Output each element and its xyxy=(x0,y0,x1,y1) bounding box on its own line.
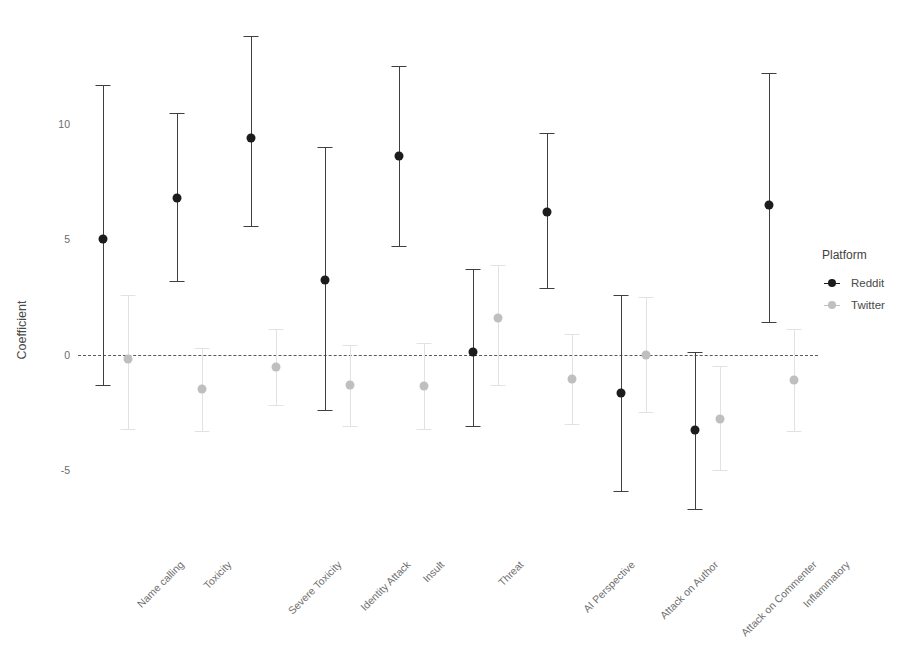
legend-key-dot xyxy=(828,301,836,309)
x-tick-label: Toxicity xyxy=(201,558,234,591)
error-bar-cap xyxy=(269,405,284,406)
series-twitter xyxy=(78,18,818,530)
error-bar-cap xyxy=(195,431,210,432)
y-axis: -50510 xyxy=(40,18,70,530)
error-bar-cap xyxy=(565,424,580,425)
data-point[interactable] xyxy=(198,385,207,394)
x-tick-label: Insult xyxy=(420,558,446,584)
legend-item-reddit[interactable]: Reddit xyxy=(822,272,907,294)
data-point[interactable] xyxy=(716,415,725,424)
error-bar-cap xyxy=(713,366,728,367)
chart-legend: Platform RedditTwitter xyxy=(822,248,907,316)
error-bar-cap xyxy=(417,343,432,344)
error-bar xyxy=(498,265,499,385)
y-tick-label: 10 xyxy=(58,118,70,130)
legend-title: Platform xyxy=(822,248,907,262)
plot-area: Name callingToxicitySevere ToxicityIdent… xyxy=(78,18,818,530)
data-point[interactable] xyxy=(568,374,577,383)
x-tick-label: AI Perspective xyxy=(581,558,637,614)
y-axis-title: Coefficient xyxy=(15,301,29,360)
legend-key-icon xyxy=(822,273,842,293)
data-point[interactable] xyxy=(420,381,429,390)
error-bar-cap xyxy=(269,329,284,330)
legend-key-dot xyxy=(828,279,836,287)
legend-key-icon xyxy=(822,295,842,315)
legend-entries: RedditTwitter xyxy=(822,272,907,316)
error-bar-cap xyxy=(491,265,506,266)
data-point[interactable] xyxy=(272,363,281,372)
legend-label: Twitter xyxy=(851,299,885,311)
data-point[interactable] xyxy=(790,376,799,385)
legend-label: Reddit xyxy=(851,277,884,289)
data-point[interactable] xyxy=(346,380,355,389)
x-tick-label: Threat xyxy=(496,558,526,588)
y-tick-label: -5 xyxy=(61,464,70,476)
data-point[interactable] xyxy=(494,313,503,322)
error-bar-cap xyxy=(343,345,358,346)
x-tick-label: Attack on Author xyxy=(657,558,720,621)
error-bar-cap xyxy=(417,429,432,430)
x-tick-label: Severe Toxicity xyxy=(285,558,343,616)
error-bar-cap xyxy=(639,412,654,413)
error-bar-cap xyxy=(195,348,210,349)
error-bar-cap xyxy=(787,431,802,432)
data-point[interactable] xyxy=(642,350,651,359)
error-bar-cap xyxy=(343,426,358,427)
y-tick-label: 5 xyxy=(64,233,70,245)
error-bar-cap xyxy=(787,329,802,330)
error-bar-cap xyxy=(713,470,728,471)
chart-page: Coefficient -50510 Name callingToxicityS… xyxy=(0,0,907,660)
legend-item-twitter[interactable]: Twitter xyxy=(822,294,907,316)
error-bar-cap xyxy=(121,295,136,296)
error-bar-cap xyxy=(565,334,580,335)
y-tick-label: 0 xyxy=(64,349,70,361)
error-bar-cap xyxy=(491,385,506,386)
data-point[interactable] xyxy=(124,355,133,364)
x-tick-label: Name calling xyxy=(135,558,186,609)
error-bar-cap xyxy=(639,297,654,298)
error-bar-cap xyxy=(121,429,136,430)
x-tick-label: Identity Attack xyxy=(358,558,413,613)
